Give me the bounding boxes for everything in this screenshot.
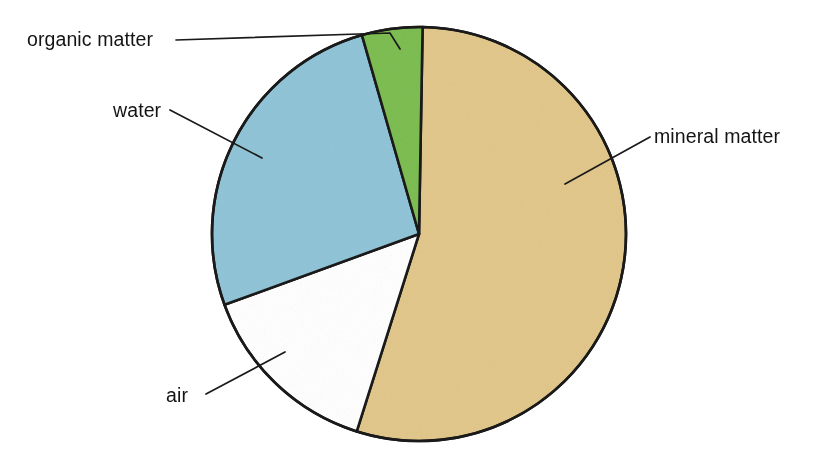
pie-label-mineral-matter: mineral matter [654, 127, 780, 147]
pie-chart-figure: organic matter water air mineral matter [0, 0, 819, 462]
pie-label-water: water [113, 101, 161, 121]
soil-composition-pie-chart [0, 0, 819, 462]
pie-label-organic-matter: organic matter [27, 30, 153, 50]
pie-label-air: air [166, 386, 188, 406]
